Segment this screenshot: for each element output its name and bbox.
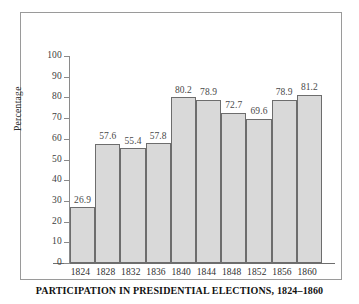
bar [221, 113, 246, 263]
chart-frame: Percentage 0102030405060708090100 26.957… [20, 12, 342, 280]
y-tick-label: 60 [52, 134, 62, 144]
y-tick-mark [64, 263, 70, 264]
y-tick-label: 30 [52, 196, 62, 206]
bar [246, 119, 271, 263]
y-tick-label: 40 [52, 175, 62, 185]
y-tick-label: 70 [52, 113, 62, 123]
bar [272, 100, 297, 263]
bar [196, 100, 221, 263]
x-axis-line [53, 263, 335, 264]
x-axis-label: 1860 [292, 267, 322, 278]
chart-caption: PARTICIPATION IN PRESIDENTIAL ELECTIONS,… [0, 285, 359, 296]
y-tick-label: 90 [52, 72, 62, 82]
bar-value-label: 57.8 [142, 132, 175, 142]
bar-series: 26.957.655.457.880.278.972.769.678.981.2 [70, 56, 322, 263]
y-tick-label: 100 [47, 51, 62, 61]
bar-value-label: 81.2 [293, 83, 326, 93]
bar [95, 144, 120, 263]
y-tick-label: 0 [57, 258, 62, 268]
bar [297, 95, 322, 263]
y-tick-label: 20 [52, 217, 62, 227]
bar [171, 97, 196, 263]
bar-value-label: 69.6 [242, 107, 275, 117]
bar [146, 143, 171, 263]
x-axis-labels: 1824182818321836184018441848185218561860 [70, 267, 322, 281]
bar-value-label: 78.9 [192, 88, 225, 98]
y-axis-title: Percentage [13, 86, 23, 131]
y-tick-label: 80 [52, 93, 62, 103]
y-tick-label: 50 [52, 155, 62, 165]
bar [70, 207, 95, 263]
y-tick-label: 10 [52, 238, 62, 248]
chart-page: Percentage 0102030405060708090100 26.957… [0, 0, 359, 304]
bar [120, 148, 145, 263]
